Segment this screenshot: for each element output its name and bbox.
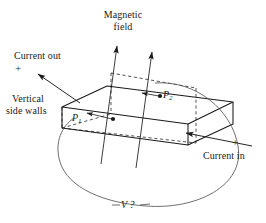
current-in-wire: [186, 133, 252, 146]
physics-diagram-figure: Magnetic field Current out + Vertical si…: [0, 0, 266, 223]
magnetic-field-label-line1: Magnetic: [104, 9, 143, 20]
point-p2-label: P2: [163, 89, 173, 102]
magnetic-field-label-line2: field: [114, 21, 133, 32]
current-out-label: Current out: [14, 50, 61, 62]
slab-visible-edges: [62, 86, 233, 145]
current-in-label: Current in: [203, 150, 245, 162]
current-out-plus-sign: +: [15, 63, 21, 74]
vertical-side-walls-label-line2: side walls: [6, 105, 47, 117]
slab-hidden-edges: [62, 73, 196, 143]
magnetic-field-label: Magnetic field: [88, 9, 158, 33]
magnetic-field-lines: [101, 46, 152, 168]
vertical-side-walls-label-line1: Vertical: [12, 93, 44, 105]
point-p1-subscript: 1: [78, 117, 82, 125]
voltmeter-loop-wire: [58, 83, 239, 207]
current-in-plus-sign: +: [232, 137, 238, 148]
point-p2-subscript: 2: [169, 94, 173, 102]
p2-probe: [142, 93, 162, 98]
current-out-wire: [38, 74, 80, 103]
point-p1-label: P1: [72, 112, 82, 125]
voltage-label: V ?: [121, 199, 134, 210]
